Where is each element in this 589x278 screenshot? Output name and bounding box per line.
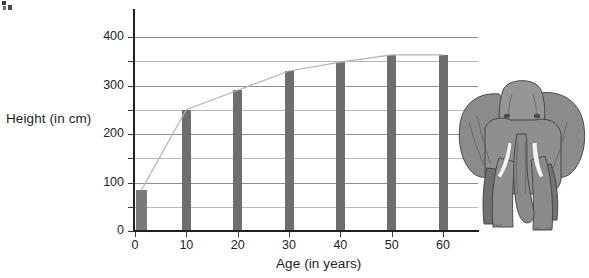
y-tick-250 — [128, 110, 134, 111]
y-tick-label-200: 200 — [84, 126, 124, 140]
bar-age-60 — [439, 55, 448, 231]
y-tick-label-300: 300 — [84, 78, 124, 92]
y-tick-label-400: 400 — [84, 29, 124, 43]
x-tick-10 — [186, 232, 187, 237]
gridline-300 — [135, 86, 478, 87]
x-tick-40 — [340, 232, 341, 237]
bar-age-50 — [387, 55, 396, 231]
y-tick-150 — [128, 158, 134, 159]
y-tick-100 — [128, 183, 134, 184]
x-tick-30 — [289, 232, 290, 237]
x-tick-20 — [238, 232, 239, 237]
x-tick-50 — [392, 232, 393, 237]
bar-age-20 — [233, 90, 242, 231]
gridline-350 — [135, 61, 478, 62]
elephant-illustration — [455, 72, 589, 240]
x-tick-label-40: 40 — [325, 238, 355, 252]
bar-age-40 — [336, 62, 345, 231]
x-tick-label-0: 0 — [120, 238, 150, 252]
x-tick-label-30: 30 — [274, 238, 304, 252]
y-axis-line — [133, 9, 135, 232]
bar-age-10 — [182, 110, 191, 231]
bar-age-30 — [285, 71, 294, 231]
y-tick-350 — [128, 61, 134, 62]
gridline-400 — [135, 37, 478, 38]
x-tick-label-60: 60 — [428, 238, 458, 252]
y-tick-0 — [128, 231, 134, 232]
x-tick-label-10: 10 — [171, 238, 201, 252]
x-tick-60 — [443, 232, 444, 237]
y-tick-400 — [128, 37, 134, 38]
x-tick-label-50: 50 — [377, 238, 407, 252]
chart-page: Height (in cm) Age (in years) 0100200300… — [0, 0, 589, 278]
y-tick-label-100: 100 — [84, 175, 124, 189]
y-tick-50 — [128, 207, 134, 208]
y-tick-200 — [128, 134, 134, 135]
y-tick-label-0: 0 — [84, 223, 124, 237]
y-tick-300 — [128, 86, 134, 87]
bar-age-0 — [136, 190, 147, 231]
x-tick-0 — [135, 232, 136, 237]
x-tick-label-20: 20 — [223, 238, 253, 252]
